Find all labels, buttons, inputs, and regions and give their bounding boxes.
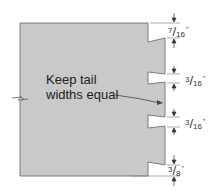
dimension-notch1: 3/16" [185, 73, 205, 88]
dimension-bottom: 3/8" [168, 163, 184, 178]
annotation-line-1: Keep tail [46, 72, 118, 87]
annotation-label: Keep tail widths equal [46, 72, 118, 102]
dimension-notch2: 3/16" [185, 116, 205, 131]
annotation-line-2: widths equal [46, 87, 118, 102]
dimension-top: 7/16" [168, 24, 188, 39]
